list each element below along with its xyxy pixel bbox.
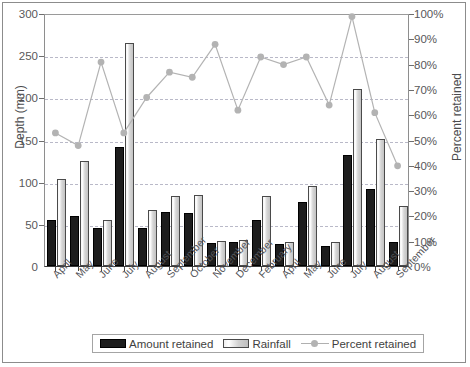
y-tick-right-70: 70%	[414, 84, 454, 96]
bar-amount-retained	[138, 228, 147, 266]
bar-amount-retained	[366, 189, 375, 266]
bar-amount-retained	[47, 220, 56, 266]
bar-group	[252, 13, 271, 266]
bar-amount-retained	[298, 202, 307, 266]
bar-group	[184, 13, 203, 266]
legend-label-percent-retained: Percent retained	[332, 338, 416, 350]
bar-group	[229, 13, 248, 266]
y-tick-left-100: 100	[2, 177, 38, 189]
bar-group	[343, 13, 362, 266]
bar-group	[115, 13, 134, 266]
bar-group	[93, 13, 112, 266]
bar-rainfall	[353, 89, 362, 266]
legend-item-amount-retained: Amount retained	[100, 338, 213, 350]
tick-mark-right-100	[409, 14, 414, 15]
bar-amount-retained	[321, 246, 330, 266]
y-tick-right-40: 40%	[414, 160, 454, 172]
tick-mark-right-20	[409, 216, 414, 217]
tick-mark-right-50	[409, 141, 414, 142]
bar-group	[298, 13, 317, 266]
y-tick-right-50: 50%	[414, 135, 454, 147]
bar-group	[321, 13, 340, 266]
bar-amount-retained	[115, 147, 124, 266]
bar-group	[389, 13, 408, 266]
bar-rainfall	[57, 179, 66, 266]
legend-item-percent-retained: Percent retained	[301, 338, 416, 350]
y-tick-left-300: 300	[2, 8, 38, 20]
y-tick-left-200: 200	[2, 92, 38, 104]
y-tick-left-150: 150	[2, 135, 38, 147]
y-tick-right-90: 90%	[414, 33, 454, 45]
tick-mark-right-30	[409, 191, 414, 192]
legend-swatch-bar-icon	[100, 339, 126, 348]
y-tick-right-30: 30%	[414, 185, 454, 197]
bar-group	[207, 13, 226, 266]
tick-mark-right-10	[409, 242, 414, 243]
y-tick-left-250: 250	[2, 50, 38, 62]
tick-mark-right-40	[409, 166, 414, 167]
y-tick-left-50: 50	[2, 219, 38, 231]
bar-group	[70, 13, 89, 266]
tick-mark-right-90	[409, 39, 414, 40]
legend-item-rainfall: Rainfall	[223, 338, 290, 350]
bar-group	[366, 13, 385, 266]
tick-mark-right-70	[409, 90, 414, 91]
y-tick-left-0: 0	[2, 261, 38, 273]
bar-group	[161, 13, 180, 266]
legend-swatch-line-marker-icon	[301, 339, 329, 348]
bar-rainfall	[125, 43, 134, 266]
legend-swatch-bar-icon	[223, 339, 249, 348]
tick-mark-right-60	[409, 115, 414, 116]
bar-rainfall	[308, 186, 317, 266]
y-tick-right-80: 80%	[414, 59, 454, 71]
plot-area	[44, 14, 409, 267]
legend-label-rainfall: Rainfall	[252, 338, 290, 350]
tick-mark-right-80	[409, 65, 414, 66]
bar-amount-retained	[93, 228, 102, 266]
legend-label-amount-retained: Amount retained	[129, 338, 213, 350]
bar-amount-retained	[343, 155, 352, 266]
bar-amount-retained	[70, 216, 79, 266]
bar-group	[138, 13, 157, 266]
bar-group	[275, 13, 294, 266]
bar-rainfall	[80, 161, 89, 266]
chart-legend: Amount retained Rainfall Percent retaine…	[92, 334, 424, 353]
y-tick-right-20: 20%	[414, 210, 454, 222]
y-tick-right-0: 0%	[414, 261, 454, 273]
y-axis-left-title: Depth (mm)	[13, 57, 27, 177]
bar-rainfall	[376, 139, 385, 266]
chart-figure: Depth (mm) Percent retained 300 250 200 …	[0, 0, 470, 367]
bar-group	[47, 13, 66, 266]
y-tick-right-60: 60%	[414, 109, 454, 121]
y-tick-right-100: 100%	[414, 8, 454, 20]
